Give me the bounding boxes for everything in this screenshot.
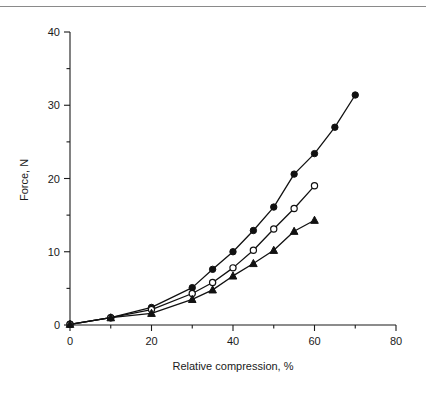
x-axis-title: Relative compression, % xyxy=(172,360,293,372)
y-tick-label: 40 xyxy=(48,26,60,38)
data-point-marker xyxy=(291,205,297,211)
y-tick-label: 20 xyxy=(48,173,60,185)
x-tick-label: 40 xyxy=(227,335,239,347)
y-axis-title: Force, N xyxy=(18,159,30,201)
x-axis-ticks xyxy=(70,325,396,331)
data-point-marker xyxy=(250,227,256,233)
series-2-open-circle xyxy=(67,183,318,328)
data-point-marker xyxy=(210,279,216,285)
data-series-layer xyxy=(66,92,358,328)
data-point-marker xyxy=(271,204,277,210)
x-tick-label: 60 xyxy=(308,335,320,347)
y-axis-ticks xyxy=(64,32,70,325)
data-point-marker xyxy=(209,266,215,272)
data-point-marker xyxy=(352,92,358,98)
data-point-marker xyxy=(230,265,236,271)
x-tick-label: 80 xyxy=(390,335,402,347)
data-point-marker xyxy=(271,226,277,232)
y-tick-label: 10 xyxy=(48,246,60,258)
data-point-marker xyxy=(188,295,196,302)
axes xyxy=(70,32,396,325)
x-axis-tick-labels: 020406080 xyxy=(67,335,402,347)
data-point-marker xyxy=(229,272,237,279)
data-point-marker xyxy=(290,227,298,234)
series-3-line xyxy=(70,220,315,324)
x-tick-label: 0 xyxy=(67,335,73,347)
data-point-marker xyxy=(250,247,256,253)
force-compression-chart: 010203040 020406080 Relative compression… xyxy=(0,0,426,393)
y-tick-label: 30 xyxy=(48,99,60,111)
y-axis-tick-labels: 010203040 xyxy=(48,26,60,331)
data-point-marker xyxy=(311,216,319,223)
series-3-filled-triangle xyxy=(66,216,318,327)
x-tick-label: 20 xyxy=(145,335,157,347)
data-point-marker xyxy=(291,171,297,177)
data-point-marker xyxy=(311,150,317,156)
data-point-marker xyxy=(332,124,338,130)
y-tick-label: 0 xyxy=(54,319,60,331)
data-point-marker xyxy=(311,183,317,189)
data-point-marker xyxy=(209,286,217,293)
data-point-marker xyxy=(230,249,236,255)
data-point-marker xyxy=(250,259,258,266)
series-2-line xyxy=(70,186,315,324)
figure-container: 010203040 020406080 Relative compression… xyxy=(0,0,426,393)
